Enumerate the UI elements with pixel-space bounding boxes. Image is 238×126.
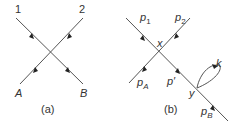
label-pB: pB [201, 106, 212, 120]
arrow-icon [29, 33, 34, 39]
label-B: B [80, 88, 87, 99]
label-vertex-y: y [189, 88, 195, 99]
label-p2: p2 [175, 12, 186, 26]
label-2: 2 [79, 4, 85, 15]
caption-a: (a) [41, 104, 54, 115]
label-k: k [216, 58, 222, 69]
label-1: 1 [15, 4, 21, 15]
panel-a-lines [16, 18, 83, 84]
label-pA: pA [137, 77, 148, 91]
label-vertex-x: x [157, 38, 163, 49]
label-p-prime: p′ [167, 76, 175, 87]
label-p1: p1 [140, 12, 151, 26]
caption-b: (b) [164, 104, 177, 115]
label-A: A [15, 88, 22, 99]
